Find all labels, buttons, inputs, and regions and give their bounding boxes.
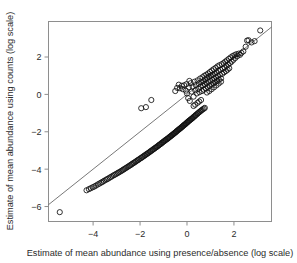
data-point: [243, 44, 248, 49]
x-tick-label: −2: [135, 229, 145, 239]
y-axis-ticks: [45, 57, 49, 207]
data-point: [191, 94, 196, 99]
data-points: [57, 28, 263, 215]
data-point: [191, 103, 196, 108]
x-axis-ticks: [93, 222, 234, 226]
data-point: [252, 39, 257, 44]
x-tick-label: −4: [88, 229, 98, 239]
y-tick-label: −2: [31, 127, 41, 137]
y-tick-label: 2: [36, 52, 41, 62]
data-point: [143, 105, 148, 110]
x-axis-title: Estimate of mean abundance using presenc…: [27, 248, 294, 258]
data-point: [258, 28, 263, 33]
x-tick-labels: −4−202: [88, 229, 236, 239]
y-tick-label: −4: [31, 165, 41, 175]
plot-canvas: −4−202 20−2−4−6 Estimate of mean abundan…: [0, 0, 297, 263]
x-tick-label: 0: [184, 229, 189, 239]
data-point: [149, 97, 154, 102]
y-tick-labels: 20−2−4−6: [31, 52, 41, 212]
data-point: [176, 82, 181, 87]
scatter-plot-figure: −4−202 20−2−4−6 Estimate of mean abundan…: [0, 0, 297, 263]
x-tick-label: 2: [231, 229, 236, 239]
y-tick-label: −6: [31, 202, 41, 212]
y-tick-label: 0: [36, 90, 41, 100]
y-axis-title: Estimate of mean abundance using counts …: [5, 12, 15, 231]
data-point: [57, 210, 62, 215]
